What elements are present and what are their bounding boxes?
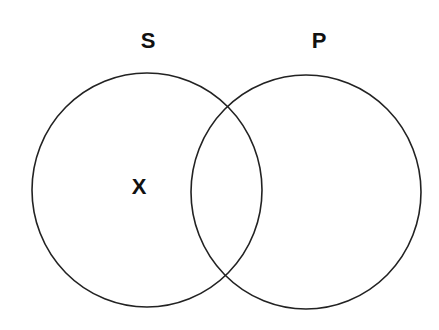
set-label-p: P <box>312 30 327 52</box>
circle-p <box>191 75 421 309</box>
mark-x: X <box>132 176 147 198</box>
venn-diagram <box>0 0 439 330</box>
set-label-s: S <box>141 30 156 52</box>
circle-s <box>32 73 262 307</box>
